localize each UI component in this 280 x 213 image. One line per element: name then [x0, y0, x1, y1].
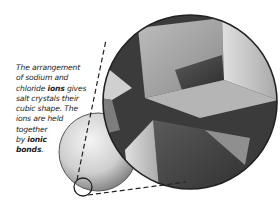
caption-line: bonds. — [16, 145, 96, 155]
caption-line: ions are held — [16, 114, 96, 124]
caption-text: The arrangement of sodium and chloride i… — [16, 63, 96, 156]
caption-line: of sodium and — [16, 73, 96, 83]
caption-line: The arrangement — [16, 63, 96, 73]
caption-line: salt crystals their — [16, 94, 96, 104]
keyword-ionic: ionic — [27, 135, 47, 144]
caption-line: by ionic — [16, 135, 96, 145]
keyword-ions: ions — [48, 84, 65, 93]
keyword-bonds: bonds — [16, 145, 41, 154]
caption-line: cubic shape. The — [16, 104, 96, 114]
caption-line: chloride ions gives — [16, 84, 96, 94]
caption-line: together — [16, 125, 96, 135]
